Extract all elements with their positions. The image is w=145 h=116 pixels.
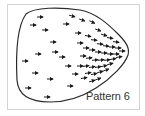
arrow-icon — [101, 34, 107, 36]
arrow-field — [22, 15, 125, 97]
arrow-icon — [85, 36, 91, 37]
arrow-icon — [92, 60, 98, 61]
arrow-icon — [103, 46, 109, 47]
arrow-icon — [116, 57, 122, 58]
boundary-outline — [17, 8, 129, 102]
arrow-icon — [97, 71, 103, 73]
arrow-icon — [101, 65, 107, 66]
arrow-icon — [107, 63, 113, 65]
arrow-icon — [104, 60, 110, 61]
arrow-icon — [83, 66, 89, 67]
arrow-icon — [95, 29, 101, 31]
arrow-icon — [98, 60, 104, 61]
pattern-label: Pattern 6 — [86, 90, 130, 102]
arrow-icon — [89, 80, 95, 82]
arrow-icon — [85, 73, 91, 74]
arrow-icon — [91, 73, 97, 74]
arrow-icon — [110, 59, 116, 60]
arrow-icon — [79, 19, 85, 21]
arrow-icon — [81, 78, 87, 79]
arrow-icon — [107, 38, 113, 39]
arrow-icon — [95, 67, 101, 68]
arrow-icon — [95, 78, 101, 80]
arrow-icon — [113, 42, 119, 43]
arrow-icon — [89, 21, 94, 24]
arrow-icon — [97, 44, 103, 45]
arrow-icon — [89, 67, 95, 68]
arrow-icon — [69, 15, 75, 17]
arrow-icon — [103, 69, 109, 71]
arrow-icon — [86, 58, 92, 59]
arrow-icon — [91, 40, 97, 41]
